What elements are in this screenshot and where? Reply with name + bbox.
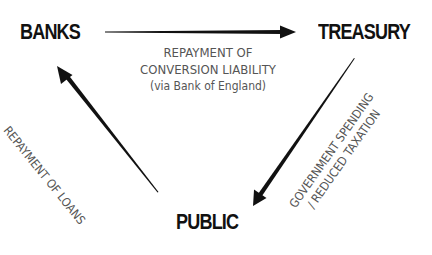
edge-label-line: REPAYMENT OF — [118, 44, 298, 61]
node-banks: BANKS — [20, 21, 80, 43]
flow-diagram: BANKS TREASURY PUBLIC REPAYMENT OF CONVE… — [0, 0, 432, 255]
edge-label-banks-to-treasury: REPAYMENT OF CONVERSION LIABILITY (via B… — [118, 44, 298, 95]
arrow-banks-to-treasury — [105, 26, 296, 39]
edge-label-subline: (via Bank of England) — [118, 78, 298, 95]
edge-label-line: CONVERSION LIABILITY — [118, 61, 298, 78]
node-treasury: TREASURY — [318, 21, 410, 43]
node-public: PUBLIC — [176, 211, 238, 233]
